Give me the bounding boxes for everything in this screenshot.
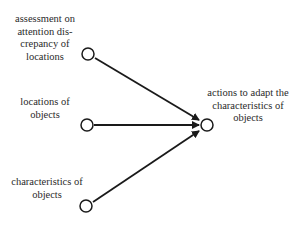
node-characteristics-circle: [80, 200, 92, 212]
diagram-canvas: assessment on attention dis- crepancy of…: [0, 0, 300, 226]
node-assessment-label: assessment on attention dis- crepancy of…: [8, 13, 82, 63]
edge-characteristics-to-actions: [93, 131, 199, 202]
node-actions-label: actions to adapt the characteristics of …: [196, 87, 300, 125]
edge-assessment-to-actions: [95, 58, 199, 120]
node-assessment-circle: [82, 48, 94, 60]
node-locations-circle: [81, 119, 93, 131]
node-locations-label: locations of objects: [10, 96, 80, 121]
node-characteristics-label: characteristics of objects: [10, 176, 84, 201]
